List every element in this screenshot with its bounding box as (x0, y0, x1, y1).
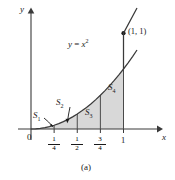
x-tick-three-quarter-denominator: 4 (94, 145, 106, 152)
region-label-s2: S2 (56, 98, 64, 109)
curve-equation-label: y = x2 (68, 38, 89, 49)
x-tick-half-numerator: 1 (71, 136, 83, 143)
figure-caption: (a) (81, 163, 91, 172)
region-s1-index: 1 (38, 116, 41, 122)
x-tick-quarter-numerator: 1 (48, 136, 60, 143)
region-s2-index: 2 (61, 103, 64, 109)
region-label-s1: S1 (33, 111, 41, 122)
x-tick-quarter-denominator: 4 (48, 145, 60, 152)
x-tick-label-quarter: 1 4 (48, 136, 60, 152)
figure-container: y x 0 y = x2 (1, 1) S1 S2 S3 S4 1 4 1 2 … (0, 0, 175, 180)
region-s3-index: 3 (90, 113, 93, 119)
y-axis-label: y (20, 5, 24, 14)
x-axis-label: x (162, 133, 166, 142)
region-label-s4: S4 (108, 83, 116, 94)
x-tick-three-quarter-numerator: 3 (94, 136, 106, 143)
origin-label: 0 (27, 133, 32, 142)
curve-equation-exponent: 2 (86, 38, 89, 44)
y-axis-arrow-icon (28, 8, 35, 14)
x-tick-label-half: 1 2 (71, 136, 83, 152)
x-tick-half-denominator: 2 (71, 145, 83, 152)
point-label-one-one: (1, 1) (128, 27, 146, 36)
region-s4-index: 4 (113, 88, 116, 94)
x-tick-label-three-quarter: 3 4 (94, 136, 106, 152)
area-under-curve-plot (0, 0, 175, 180)
x-tick-label-one: 1 (121, 136, 125, 145)
curve-equation-equals: = (72, 39, 82, 49)
region-label-s3: S3 (85, 108, 93, 119)
